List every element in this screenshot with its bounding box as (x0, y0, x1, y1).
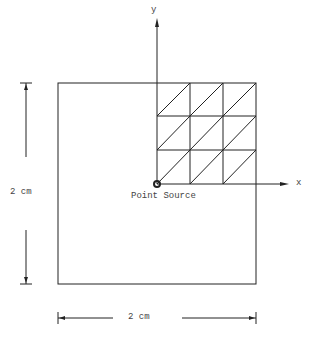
x-axis-label: x (296, 178, 301, 188)
height-dimension-label: 2 cm (10, 187, 32, 197)
width-dimension-line (58, 312, 256, 324)
height-dimension-line (20, 83, 32, 284)
arrow-up-icon (24, 84, 28, 90)
width-dimension-label: 2 cm (128, 312, 150, 322)
diagram-canvas (0, 0, 314, 340)
arrow-down-icon (24, 277, 28, 283)
x-axis-arrow-icon (280, 182, 289, 186)
arrow-right-icon (249, 316, 255, 320)
arrow-left-icon (59, 316, 65, 320)
mesh-grid (157, 83, 256, 184)
y-axis-arrow-icon (155, 18, 159, 27)
y-axis-label: y (151, 5, 156, 15)
point-source-label: Point Source (131, 191, 196, 201)
